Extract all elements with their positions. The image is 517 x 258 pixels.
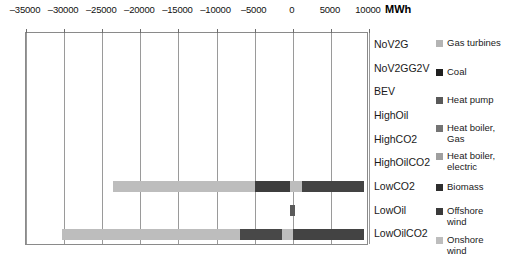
- plot-area: [25, 32, 368, 245]
- legend-label: Heat boiler, Gas: [447, 123, 495, 144]
- x-tick-mark: [64, 29, 65, 33]
- bar-row: [26, 229, 367, 240]
- legend-label: Biomass: [447, 182, 483, 193]
- x-tick-label: –15000: [162, 4, 193, 15]
- legend-label: Gas turbines: [447, 38, 501, 49]
- category-label-highoilco2: HighOilCO2: [374, 156, 430, 168]
- bar-segment: [290, 181, 301, 192]
- legend-swatch-icon: [436, 184, 443, 191]
- x-tick-mark: [102, 29, 103, 33]
- gridline: [369, 33, 370, 244]
- legend-label: Onshore wind: [447, 235, 483, 256]
- category-label-lowoilco2: LowOilCO2: [374, 227, 428, 239]
- x-tick-mark: [217, 29, 218, 33]
- x-tick-mark: [255, 29, 256, 33]
- bar-row: [26, 87, 367, 98]
- legend-item[interactable]: Gas turbines: [436, 38, 501, 49]
- legend-swatch-icon: [436, 208, 443, 215]
- legend-item[interactable]: Coal: [436, 67, 467, 78]
- bar-row: [26, 134, 367, 145]
- legend-label: Heat boiler, electric: [447, 151, 495, 172]
- category-label-nov2gg2v: NoV2GG2V: [374, 62, 429, 74]
- legend-swatch-icon: [436, 153, 443, 160]
- category-label-highoil: HighOil: [374, 109, 408, 121]
- x-tick-label: –10000: [200, 4, 231, 15]
- x-tick-mark: [369, 29, 370, 33]
- category-label-nov2g: NoV2G: [374, 38, 408, 50]
- bar-segment: [282, 229, 293, 240]
- bar-segment: [113, 181, 256, 192]
- legend-label: Offshore wind: [447, 206, 483, 227]
- category-label-highco2: HighCO2: [374, 133, 417, 145]
- legend-swatch-icon: [436, 40, 443, 47]
- category-label-lowco2: LowCO2: [374, 180, 415, 192]
- legend-item[interactable]: Heat pump: [436, 95, 493, 106]
- x-tick-mark: [293, 29, 294, 33]
- bar-segment: [302, 181, 365, 192]
- legend-label: Coal: [447, 67, 467, 78]
- bar-segment: [255, 181, 290, 192]
- x-tick-label: –5000: [241, 4, 266, 15]
- x-tick-label: 10000: [355, 4, 380, 15]
- x-tick-mark: [26, 29, 27, 33]
- bar-segment: [240, 229, 282, 240]
- x-tick-label: –30000: [48, 4, 79, 15]
- x-tick-label: 0: [289, 4, 294, 15]
- bar-row: [26, 205, 367, 216]
- legend-swatch-icon: [436, 125, 443, 132]
- legend-swatch-icon: [436, 237, 443, 244]
- bar-row: [26, 158, 367, 169]
- legend-item[interactable]: Offshore wind: [436, 206, 483, 227]
- x-tick-mark: [140, 29, 141, 33]
- legend-item[interactable]: Heat boiler, electric: [436, 151, 495, 172]
- axis-unit-label: MWh: [385, 3, 411, 15]
- x-tick-label: 5000: [320, 4, 340, 15]
- bar-row: [26, 181, 367, 192]
- x-tick-mark: [331, 29, 332, 33]
- bar-row: [26, 63, 367, 74]
- x-tick-mark: [178, 29, 179, 33]
- x-tick-label: –35000: [10, 4, 41, 15]
- legend-label: Heat pump: [447, 95, 493, 106]
- legend-item[interactable]: Biomass: [436, 182, 483, 193]
- bar-segment: [62, 229, 240, 240]
- chart-root: –35000–30000–25000–20000–15000–10000–500…: [0, 0, 517, 258]
- x-tick-label: –20000: [124, 4, 155, 15]
- bar-segment: [293, 229, 365, 240]
- legend-swatch-icon: [436, 97, 443, 104]
- bar-row: [26, 110, 367, 121]
- category-label-lowoil: LowOil: [374, 204, 406, 216]
- x-tick-label: –25000: [86, 4, 117, 15]
- category-label-bev: BEV: [374, 85, 395, 97]
- bar-row: [26, 39, 367, 50]
- legend-item[interactable]: Heat boiler, Gas: [436, 123, 495, 144]
- bar-segment: [290, 205, 295, 216]
- legend-item[interactable]: Onshore wind: [436, 235, 483, 256]
- legend-swatch-icon: [436, 69, 443, 76]
